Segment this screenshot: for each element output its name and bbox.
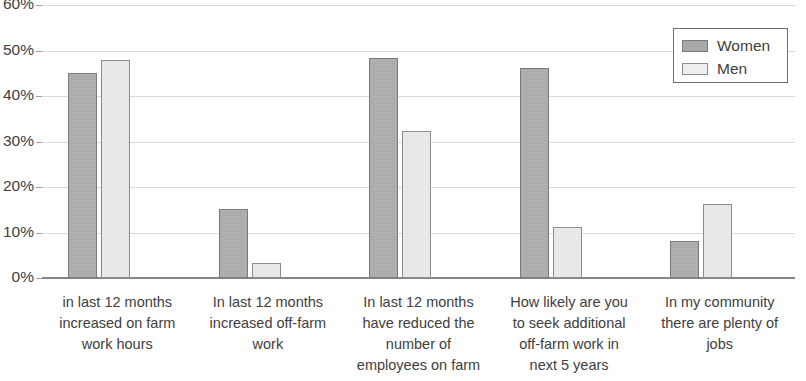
x-axis-label-line: In last 12 months bbox=[343, 292, 494, 313]
x-axis-label-5: In my communitythere are plenty ofjobs bbox=[644, 292, 795, 355]
legend-swatch-women-icon bbox=[682, 40, 708, 52]
y-axis-tick-label: 50% bbox=[3, 41, 34, 59]
x-axis-category-labels: in last 12 monthsincreased on farmwork h… bbox=[42, 292, 795, 381]
bar-women-4 bbox=[520, 68, 549, 278]
y-axis-tick-label: 10% bbox=[3, 223, 34, 241]
x-axis-label-1: in last 12 monthsincreased on farmwork h… bbox=[42, 292, 193, 355]
x-axis-label-line: increased on farm bbox=[42, 313, 193, 334]
x-axis-label-line: work bbox=[193, 334, 344, 355]
x-axis-label-line: employees on farm bbox=[343, 355, 494, 376]
x-axis-label-line: there are plenty of bbox=[644, 313, 795, 334]
x-axis-label-line: off-farm work in bbox=[494, 334, 645, 355]
y-axis-tick-label: 60% bbox=[3, 0, 34, 13]
legend-item-men: Men bbox=[682, 58, 779, 79]
bar-chart: 0%10%20%30%40%50%60% in last 12 monthsin… bbox=[0, 0, 806, 381]
gridline bbox=[42, 96, 795, 97]
x-axis-label-line: have reduced the bbox=[343, 313, 494, 334]
chart-legend: Women Men bbox=[673, 28, 788, 83]
bar-men-1 bbox=[101, 60, 130, 278]
x-axis-label-2: In last 12 monthsincreased off-farmwork bbox=[193, 292, 344, 355]
y-axis-tick-label: 0% bbox=[12, 268, 34, 286]
legend-label-men: Men bbox=[717, 60, 747, 78]
x-axis-label-4: How likely are youto seek additionaloff-… bbox=[494, 292, 645, 376]
x-axis-label-line: In last 12 months bbox=[193, 292, 344, 313]
legend-label-women: Women bbox=[717, 37, 770, 55]
x-axis-label-line: next 5 years bbox=[494, 355, 645, 376]
bar-men-5 bbox=[703, 204, 732, 278]
x-axis-label-line: number of bbox=[343, 334, 494, 355]
y-axis-labels: 0%10%20%30%40%50%60% bbox=[0, 0, 40, 290]
x-axis-label-line: in last 12 months bbox=[42, 292, 193, 313]
x-axis-label-3: In last 12 monthshave reduced thenumber … bbox=[343, 292, 494, 376]
y-axis-tick-label: 20% bbox=[3, 177, 34, 195]
legend-item-women: Women bbox=[682, 35, 779, 56]
gridline bbox=[42, 5, 795, 6]
x-axis-label-line: increased off-farm bbox=[193, 313, 344, 334]
y-axis-tick-label: 40% bbox=[3, 86, 34, 104]
legend-swatch-men-icon bbox=[682, 63, 708, 75]
y-axis-tick-label: 30% bbox=[3, 132, 34, 150]
bar-women-3 bbox=[369, 58, 398, 278]
x-axis-label-line: In my community bbox=[644, 292, 795, 313]
x-axis-label-line: work hours bbox=[42, 334, 193, 355]
x-axis-label-line: jobs bbox=[644, 334, 795, 355]
x-axis-label-line: to seek additional bbox=[494, 313, 645, 334]
bar-women-1 bbox=[68, 73, 97, 278]
x-axis-label-line: How likely are you bbox=[494, 292, 645, 313]
bar-men-3 bbox=[402, 131, 431, 278]
bar-women-5 bbox=[670, 241, 699, 278]
bar-women-2 bbox=[219, 209, 248, 278]
bar-men-4 bbox=[553, 227, 582, 278]
bar-men-2 bbox=[252, 263, 281, 278]
